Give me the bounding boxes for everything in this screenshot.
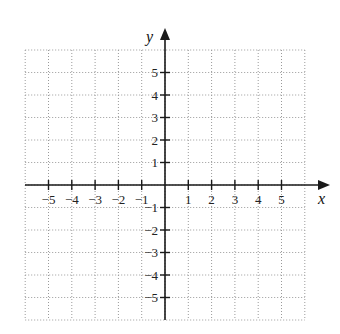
y-tick-label: −4 [144, 268, 158, 283]
y-axis-arrow-icon [160, 28, 170, 40]
y-tick-label: 1 [152, 155, 159, 170]
x-tick-label: 2 [208, 192, 215, 207]
y-tick-label: −1 [144, 200, 158, 215]
y-tick-label: 5 [152, 65, 159, 80]
x-tick-label: −5 [42, 192, 56, 207]
x-tick-label: 4 [255, 192, 262, 207]
x-tick-label: 1 [185, 192, 192, 207]
y-tick-label: 4 [152, 88, 159, 103]
y-tick-label: −3 [144, 245, 158, 260]
y-tick-label: 3 [152, 110, 159, 125]
axes: x y [25, 28, 330, 320]
y-axis-label: y [144, 28, 154, 46]
x-tick-label: 5 [278, 192, 285, 207]
coordinate-plane: x y −5−4−3−2−11234554321−1−2−3−4−5 [0, 0, 340, 334]
x-tick-label: −4 [65, 192, 79, 207]
x-tick-label: −3 [88, 192, 102, 207]
x-tick-label: 3 [232, 192, 239, 207]
y-tick-label: 2 [152, 133, 159, 148]
y-tick-label: −5 [144, 290, 158, 305]
y-tick-label: −2 [144, 223, 158, 238]
x-tick-label: −2 [111, 192, 125, 207]
x-axis-label: x [317, 190, 325, 207]
x-axis-arrow-icon [318, 180, 330, 190]
